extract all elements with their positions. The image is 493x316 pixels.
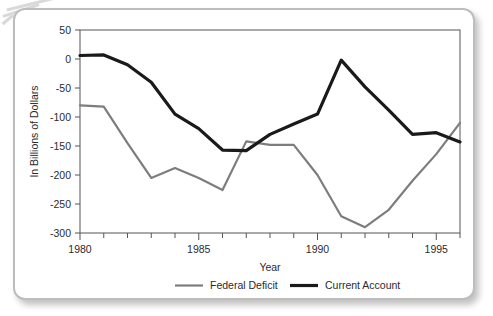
y-tick-label: -200 [50, 169, 71, 181]
series-line-current-account [80, 55, 460, 151]
y-axis: 500-50-100-150-200-250-300 [50, 24, 80, 239]
y-tick-label: 50 [59, 24, 71, 36]
series-layer [80, 55, 460, 227]
x-axis-title: Year [259, 261, 281, 273]
legend-label: Current Account [325, 279, 400, 291]
legend-label: Federal Deficit [210, 279, 278, 291]
y-tick-label: -100 [50, 111, 71, 123]
chart-container: 500-50-100-150-200-250-300 1980198519901… [0, 0, 493, 316]
line-chart: 500-50-100-150-200-250-300 1980198519901… [0, 0, 493, 316]
y-tick-label: -50 [56, 82, 71, 94]
y-tick-label: -150 [50, 140, 71, 152]
plot-frame [80, 30, 460, 233]
figure-page: 500-50-100-150-200-250-300 1980198519901… [0, 0, 493, 316]
x-axis: 1980198519901995 [68, 233, 460, 255]
y-tick-label: 0 [65, 53, 71, 65]
chart-legend: Federal DeficitCurrent Account [175, 279, 400, 291]
x-tick-label: 1985 [187, 243, 211, 255]
y-tick-label: -300 [50, 227, 71, 239]
x-tick-label: 1980 [68, 243, 92, 255]
x-tick-label: 1990 [306, 243, 330, 255]
y-axis-title: In Billions of Dollars [28, 85, 40, 177]
y-tick-label: -250 [50, 198, 71, 210]
x-tick-label: 1995 [425, 243, 449, 255]
